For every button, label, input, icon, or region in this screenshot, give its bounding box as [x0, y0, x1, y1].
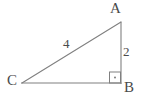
- vertex-label-b: B: [124, 80, 134, 95]
- vertex-label-c: C: [7, 73, 17, 88]
- side-length-label-hypotenuse: 4: [63, 37, 70, 50]
- vertex-label-a: A: [110, 1, 121, 16]
- geometry-figure: A B C 4 2: [0, 0, 142, 103]
- right-angle-marker-dot: [114, 77, 116, 79]
- side-length-label-vertical: 2: [123, 45, 130, 58]
- side-hypotenuse-line: [22, 22, 121, 83]
